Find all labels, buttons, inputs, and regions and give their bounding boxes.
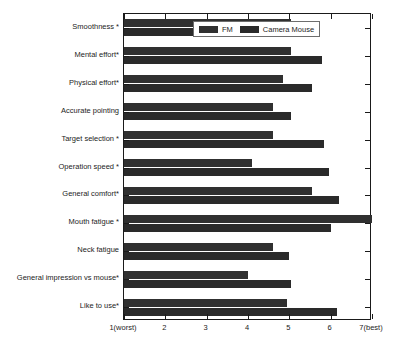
bar-fm — [124, 75, 283, 83]
x-axis-tick-label: 2 — [162, 323, 166, 332]
bar-camera-mouse — [124, 56, 322, 64]
y-tick-mark — [124, 168, 129, 169]
chart-figure: Smoothness *Mental effort*Physical effor… — [0, 0, 397, 355]
y-tick-mark — [124, 28, 129, 29]
y-tick-mark — [124, 56, 129, 57]
bar-camera-mouse — [124, 224, 331, 232]
x-tick-mark — [331, 14, 332, 19]
bar-fm — [124, 159, 252, 167]
y-axis-label: Neck fatigue — [77, 245, 119, 254]
legend-swatch-icon — [240, 26, 259, 33]
x-axis-tick-label: 7(best) — [359, 323, 382, 332]
y-tick-mark — [124, 279, 129, 280]
y-axis-label: Accurate pointing — [61, 106, 119, 115]
x-tick-mark — [372, 14, 373, 19]
y-tick-mark — [365, 56, 370, 57]
y-axis-label: Like to use* — [80, 301, 119, 310]
y-tick-mark — [124, 223, 129, 224]
legend-label: FM — [222, 25, 233, 34]
bar-fm — [124, 131, 273, 139]
y-tick-mark — [365, 112, 370, 113]
x-tick-mark — [165, 314, 166, 319]
bar-camera-mouse — [124, 280, 291, 288]
y-tick-mark — [365, 168, 370, 169]
bar-fm — [124, 187, 312, 195]
y-tick-mark — [365, 279, 370, 280]
x-tick-mark — [289, 314, 290, 319]
bar-fm — [124, 215, 372, 223]
x-axis-tick-label: 6 — [328, 323, 332, 332]
bar-camera-mouse — [124, 196, 339, 204]
x-tick-mark — [289, 14, 290, 19]
y-tick-mark — [124, 112, 129, 113]
y-tick-mark — [365, 195, 370, 196]
y-axis-label: Target selection * — [61, 134, 119, 143]
y-tick-mark — [124, 195, 129, 196]
bar-camera-mouse — [124, 168, 329, 176]
bar-fm — [124, 47, 291, 55]
x-axis-tick-label: 5 — [286, 323, 290, 332]
x-axis-tick-label: 4 — [245, 323, 249, 332]
x-tick-mark — [331, 314, 332, 319]
bar-fm — [124, 299, 287, 307]
bar-camera-mouse — [124, 140, 324, 148]
x-tick-mark — [207, 314, 208, 319]
bar-fm — [124, 243, 273, 251]
bar-camera-mouse — [124, 252, 289, 260]
y-tick-mark — [365, 84, 370, 85]
bar-camera-mouse — [124, 308, 337, 316]
x-tick-mark — [248, 14, 249, 19]
y-axis-label: Physical effort* — [69, 78, 119, 87]
y-tick-mark — [365, 140, 370, 141]
bar-camera-mouse — [124, 112, 291, 120]
y-tick-mark — [365, 307, 370, 308]
chart-legend: FMCamera Mouse — [193, 21, 320, 37]
bar-fm — [124, 271, 248, 279]
y-tick-mark — [124, 307, 129, 308]
y-tick-mark — [365, 223, 370, 224]
bars-layer — [124, 14, 370, 319]
x-tick-mark — [124, 14, 125, 19]
legend-swatch-icon — [199, 26, 218, 33]
x-axis-tick-label: 3 — [204, 323, 208, 332]
x-axis-tick-label: 1(worst) — [109, 323, 136, 332]
y-axis-label: Operation speed * — [59, 162, 119, 171]
y-axis-label: Mental effort* — [75, 50, 119, 59]
y-tick-mark — [365, 251, 370, 252]
plot-area — [123, 13, 371, 320]
y-tick-mark — [124, 84, 129, 85]
x-tick-mark — [372, 314, 373, 319]
y-tick-mark — [124, 251, 129, 252]
x-tick-mark — [248, 314, 249, 319]
y-axis-label: Mouth fatigue * — [69, 217, 119, 226]
y-tick-mark — [124, 140, 129, 141]
x-tick-mark — [207, 14, 208, 19]
y-axis-label: Smoothness * — [72, 22, 119, 31]
x-tick-mark — [165, 14, 166, 19]
y-axis-label: General impression vs mouse* — [17, 273, 119, 282]
x-tick-mark — [124, 314, 125, 319]
bar-camera-mouse — [124, 84, 312, 92]
y-axis-label: General comfort* — [62, 189, 119, 198]
legend-entry: FM — [199, 25, 233, 34]
bar-fm — [124, 103, 273, 111]
legend-label: Camera Mouse — [263, 25, 314, 34]
y-tick-mark — [365, 28, 370, 29]
legend-entry: Camera Mouse — [240, 25, 314, 34]
